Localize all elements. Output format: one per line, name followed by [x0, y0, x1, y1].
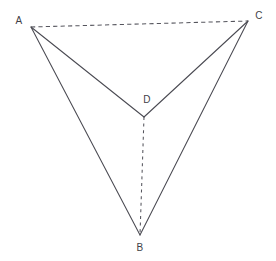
- vertex-label-a: A: [16, 16, 23, 26]
- vertex-label-b: B: [137, 243, 144, 253]
- edge-c-d: [144, 21, 248, 117]
- edge-c-b: [140, 21, 248, 235]
- geometry-diagram-canvas: A B C D: [0, 0, 276, 261]
- edge-a-d: [31, 27, 144, 117]
- edge-a-b: [31, 27, 140, 235]
- edge-a-c: [31, 21, 248, 27]
- vertex-label-d: D: [143, 95, 150, 105]
- edge-d-b: [140, 117, 144, 235]
- vertex-label-c: C: [255, 11, 262, 21]
- figure-svg: [0, 0, 276, 261]
